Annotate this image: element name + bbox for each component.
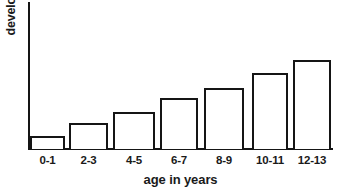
plot-area: 0-12-34-56-78-910-1112-13: [0, 0, 347, 193]
bar-6-7: [160, 98, 198, 149]
bar-12-13: [293, 60, 331, 149]
bar-2-3: [69, 123, 108, 149]
x-tick-label-12-13: 12-13: [285, 153, 339, 167]
bar-10-11: [252, 73, 288, 149]
bar-8-9: [204, 88, 244, 149]
bar-0-1: [30, 136, 65, 149]
y-axis-line: [28, 2, 30, 150]
bar-chart: development 0-12-34-56-78-910-1112-13 ag…: [0, 0, 347, 193]
bar-4-5: [113, 112, 155, 149]
x-axis-title: age in years: [28, 172, 333, 188]
